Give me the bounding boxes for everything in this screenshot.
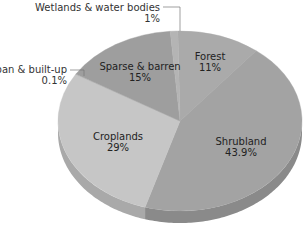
- wetlands-label-name: Wetlands & water bodies: [35, 2, 160, 13]
- croplands-label-name: Croplands: [93, 131, 143, 142]
- croplands-label-value: 29%: [107, 142, 129, 153]
- shrubland-label-name: Shrubland: [215, 136, 266, 147]
- sparse-label-value: 15%: [129, 72, 151, 83]
- forest-label-name: Forest: [195, 51, 226, 62]
- urban-label-name: Urban & built-up: [0, 64, 67, 75]
- wetlands-label-value: 1%: [144, 13, 160, 24]
- forest-label-value: 11%: [199, 62, 221, 73]
- pie-slices: [58, 31, 302, 211]
- shrubland-label-value: 43.9%: [225, 147, 257, 158]
- sparse-label-name: Sparse & barren: [99, 61, 180, 72]
- pie-chart: Wetlands & water bodies 1% Urban & built…: [0, 0, 306, 235]
- urban-label-value: 0.1%: [42, 75, 67, 86]
- wetlands-leader-line: [163, 7, 180, 31]
